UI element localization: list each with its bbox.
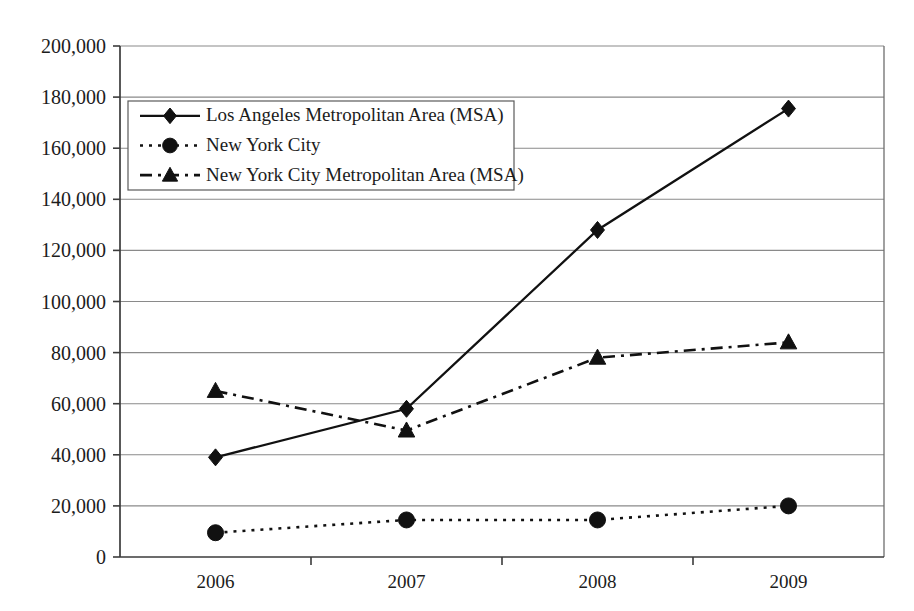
y-tick-label: 60,000: [51, 393, 106, 415]
circle-marker: [590, 512, 606, 528]
y-tick-label: 100,000: [41, 291, 106, 313]
legend-label: Los Angeles Metropolitan Area (MSA): [206, 104, 504, 126]
y-tick-label: 40,000: [51, 444, 106, 466]
y-tick-label: 20,000: [51, 495, 106, 517]
y-tick-label: 0: [96, 546, 106, 568]
y-tick-label: 140,000: [41, 188, 106, 210]
circle-marker: [399, 512, 415, 528]
y-tick-label: 120,000: [41, 239, 106, 261]
x-tick-label: 2006: [197, 571, 235, 592]
x-tick-label: 2008: [579, 571, 617, 592]
y-tick-label: 200,000: [41, 35, 106, 57]
chart-background: [0, 0, 914, 611]
x-tick-label: 2009: [770, 571, 808, 592]
x-tick-label: 2007: [388, 571, 426, 592]
legend-label: New York City Metropolitan Area (MSA): [206, 164, 524, 186]
circle-marker: [163, 138, 178, 153]
circle-marker: [208, 525, 224, 541]
line-chart: 020,00040,00060,00080,000100,000120,0001…: [0, 0, 914, 611]
y-tick-label: 160,000: [41, 137, 106, 159]
chart-container: 020,00040,00060,00080,000100,000120,0001…: [0, 0, 914, 611]
chart-legend: Los Angeles Metropolitan Area (MSA)New Y…: [128, 101, 524, 190]
circle-marker: [781, 498, 797, 514]
y-tick-label: 180,000: [41, 86, 106, 108]
legend-label: New York City: [206, 134, 321, 155]
y-tick-label: 80,000: [51, 342, 106, 364]
